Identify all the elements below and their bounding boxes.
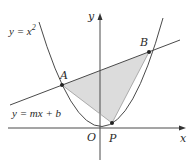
point-a: [60, 83, 64, 87]
line-label: y = mx + b: [11, 107, 62, 119]
point-p-label: P: [108, 132, 117, 145]
point-a-label: A: [59, 69, 68, 82]
origin-label: O: [87, 131, 96, 144]
triangle-apb-region: [62, 52, 149, 123]
point-b-label: B: [139, 36, 148, 49]
point-p: [110, 121, 114, 125]
point-b: [147, 50, 151, 54]
x-axis-label: x: [180, 132, 187, 145]
x-axis-arrow-icon: [179, 126, 186, 131]
y-axis-arrow-icon: [98, 13, 103, 20]
parabola-label: y = x2: [8, 23, 36, 37]
y-axis-label: y: [87, 10, 95, 23]
diagram-canvas: y = x2 y = mx + b y x O A B P: [0, 0, 193, 163]
